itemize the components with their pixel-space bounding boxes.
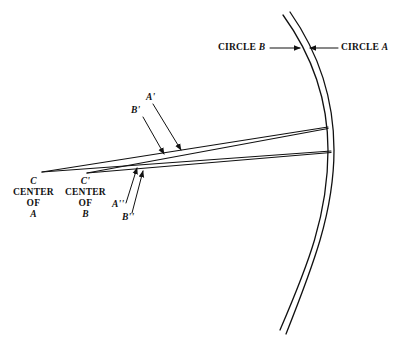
arrow-a-double-prime [126,168,137,203]
label-point-c-prime: C' [81,176,90,187]
radius-cprime-upper [87,129,328,174]
label-center-b-line3: B [82,209,89,220]
label-a-prime: A' [146,92,155,103]
label-circle-a-text: CIRCLE [341,42,379,52]
label-circle-b: CIRCLE B [218,42,265,53]
label-circle-b-letter: B [259,42,266,52]
arrow-a-prime [153,104,181,150]
circle-b-arc [280,15,328,330]
label-center-of-b: C' CENTER OF B [65,176,106,220]
label-center-a-line2: OF [27,198,41,209]
label-circle-a-letter: A [382,42,389,52]
label-circle-b-text: CIRCLE [218,42,256,52]
arrow-b-prime [143,117,164,154]
radius-cprime-lower [87,153,331,174]
label-point-c: C [30,176,37,187]
label-center-a-line1: CENTER [13,187,54,198]
label-b-prime: B' [131,105,140,116]
label-a-double-prime: A'' [112,199,124,210]
diagram-canvas [0,0,395,348]
label-circle-a: CIRCLE A [341,42,388,53]
label-center-of-a: C CENTER OF A [13,176,54,220]
label-b-double-prime: B'' [122,212,134,223]
label-center-b-line1: CENTER [65,187,106,198]
label-center-a-line3: A [30,209,37,220]
label-center-b-line2: OF [79,198,93,209]
